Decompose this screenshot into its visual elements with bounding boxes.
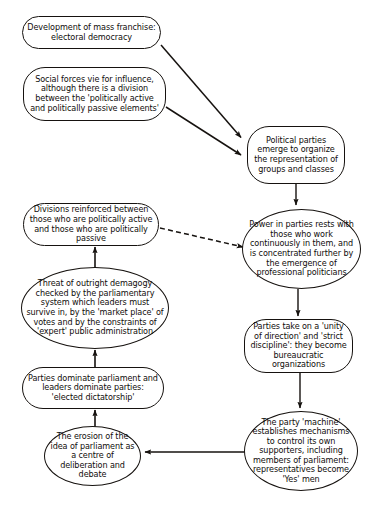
node-party-machine-establishes-mechanisms[interactable]: The party 'machine' establishes mechanis…: [244, 411, 358, 491]
node-label: Threat of outright demagogy checked by t…: [22, 279, 168, 336]
node-label: Parties dominate parliament and leaders …: [23, 374, 163, 403]
node-label: Power in parties rests with those who wo…: [243, 220, 360, 277]
node-label: Divisions reinforced between those who a…: [24, 205, 158, 243]
node-label: Parties take on a 'unity of direction' a…: [245, 322, 352, 370]
node-development-of-mass-franchise[interactable]: Development of mass franchise: electoral…: [22, 16, 161, 49]
node-label: The erosion of the idea of parliament as…: [45, 432, 140, 480]
node-label: Social forces vie for influence, althoug…: [24, 75, 165, 113]
node-threat-of-outright-demagogy[interactable]: Threat of outright demagogy checked by t…: [21, 267, 169, 349]
edge-franchise-to-parties: [161, 45, 241, 138]
node-parties-dominate-parliament[interactable]: Parties dominate parliament and leaders …: [22, 367, 164, 409]
node-parties-take-on-unity-of-direction[interactable]: Parties take on a 'unity of direction' a…: [244, 319, 353, 373]
edge-socialforces-to-parties: [166, 107, 241, 155]
node-divisions-reinforced[interactable]: Divisions reinforced between those who a…: [23, 203, 159, 246]
flowchart-diagram: Development of mass franchise: electoral…: [0, 0, 373, 505]
node-label: The party 'machine' establishes mechanis…: [245, 418, 357, 485]
node-power-in-parties-rests[interactable]: Power in parties rests with those who wo…: [242, 209, 361, 289]
node-label: Political parties emerge to organize the…: [248, 136, 344, 174]
node-erosion-of-idea-of-parliament[interactable]: The erosion of the idea of parliament as…: [44, 426, 141, 486]
node-political-parties-emerge[interactable]: Political parties emerge to organize the…: [247, 126, 345, 184]
node-label: Development of mass franchise: electoral…: [23, 23, 160, 42]
node-social-forces-vie-for-influence[interactable]: Social forces vie for influence, althoug…: [23, 67, 166, 121]
edge-divisions-to-power-dashed: [160, 228, 243, 247]
